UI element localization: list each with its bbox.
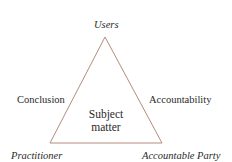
center-label-line2: matter bbox=[80, 121, 132, 134]
triangle-diagram: Users Conclusion Accountability Subject … bbox=[0, 0, 232, 162]
edge-label-conclusion: Conclusion bbox=[17, 94, 65, 106]
vertex-label-users: Users bbox=[94, 19, 119, 31]
center-label-line1: Subject bbox=[80, 108, 132, 121]
vertex-label-accountable-party: Accountable Party bbox=[142, 150, 220, 162]
edge-label-accountability: Accountability bbox=[149, 94, 211, 106]
vertex-label-practitioner: Practitioner bbox=[11, 150, 62, 162]
center-label-subject-matter: Subject matter bbox=[80, 108, 132, 134]
